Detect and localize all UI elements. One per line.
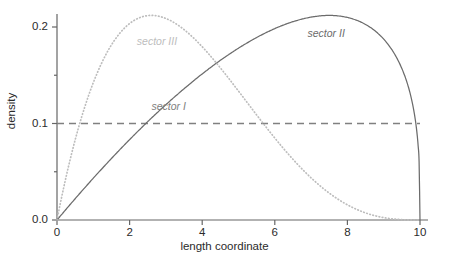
annotation-sector-ii: sector II (307, 27, 344, 39)
y-axis-title: density (5, 76, 17, 146)
chart-figure: 0.00.10.2 0246810 sector Isector IIIsect… (0, 0, 449, 261)
data-series-group (57, 15, 420, 220)
chart-plot-area (0, 0, 449, 261)
x-tick-label: 4 (182, 226, 222, 238)
y-tick-label: 0.2 (10, 20, 48, 32)
y-tick-label: 0.0 (10, 213, 48, 225)
annotation-sector-i: sector I (151, 100, 185, 112)
series-line-3 (57, 15, 420, 220)
annotation-sector-iii: sector III (137, 35, 177, 47)
x-tick-label: 0 (37, 226, 77, 238)
x-tick-label: 10 (400, 226, 440, 238)
y-axis-ticks (52, 27, 57, 220)
x-axis-ticks (57, 220, 420, 225)
x-tick-label: 8 (327, 226, 367, 238)
x-axis-title: length coordinate (0, 240, 449, 252)
x-tick-label: 6 (255, 226, 295, 238)
x-tick-label: 2 (110, 226, 150, 238)
